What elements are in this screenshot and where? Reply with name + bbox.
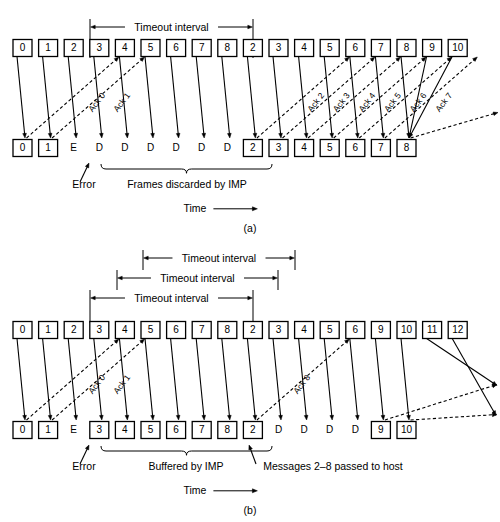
- error-label: Error: [72, 178, 96, 190]
- frame-number: 7: [199, 324, 205, 335]
- data-arrow: [375, 339, 383, 417]
- frame-number: 7: [378, 142, 384, 153]
- frame-number: 2: [71, 42, 77, 53]
- bracket-arrow-left: [91, 296, 96, 300]
- receiver-row-a: 01EDDDDDD2345678: [13, 140, 416, 157]
- data-arrow: [247, 57, 255, 135]
- ack-arrows: Ack 0Ack 1Ack 8: [27, 339, 498, 420]
- frame-number: 9: [378, 424, 384, 435]
- time-axis-label: Time: [184, 484, 207, 496]
- data-arrow: [247, 339, 255, 417]
- frame-marker: D: [275, 424, 282, 435]
- ack-label: Ack 6: [408, 90, 429, 113]
- ack-arrow: [257, 59, 347, 138]
- data-arrow: [171, 339, 179, 417]
- frame-number: 5: [327, 324, 333, 335]
- frame-number: 5: [148, 424, 154, 435]
- passed-pointer: [250, 448, 256, 464]
- frame-number: 12: [452, 324, 464, 335]
- panel-a: Timeout intervalAck 0Ack 1Ack 2Ack 3Ack …: [0, 0, 500, 240]
- frame-marker: D: [172, 142, 179, 153]
- data-arrow-head: [48, 415, 52, 420]
- frame-number: 8: [225, 324, 231, 335]
- frame-number: 4: [301, 42, 307, 53]
- data-arrow-head: [330, 415, 334, 420]
- ack-arrow-head: [345, 339, 350, 343]
- frame-marker: D: [198, 142, 205, 153]
- frame-marker: D: [224, 142, 231, 153]
- error-label: Error: [72, 460, 96, 472]
- timeout-bracket: Timeout interval: [90, 290, 253, 323]
- time-axis-arrow: [252, 489, 257, 493]
- ack-label: Ack 5: [382, 90, 403, 113]
- frame-number: 0: [20, 42, 26, 53]
- frame-number: 6: [353, 42, 359, 53]
- data-arrow: [196, 57, 204, 135]
- ack-arrow-offscreen-head: [493, 112, 498, 116]
- bracket-arrow-right: [248, 296, 253, 300]
- ack-arrows: Ack 0Ack 1Ack 2Ack 3Ack 4Ack 5Ack 6Ack 7: [27, 57, 499, 138]
- receiver-row-b: 01E3456782DDDD910: [13, 422, 416, 439]
- frame-number: 5: [148, 42, 154, 53]
- frame-marker: E: [70, 142, 77, 153]
- frame-number: 3: [276, 142, 282, 153]
- frame-marker: D: [96, 142, 103, 153]
- frame-number: 6: [353, 324, 359, 335]
- frame-number: 1: [45, 142, 51, 153]
- frame-number: 3: [97, 324, 103, 335]
- ack-label: Ack 4: [356, 90, 377, 113]
- ack-arrow-offscreen: [411, 113, 495, 138]
- data-frame-arrows: [17, 57, 452, 139]
- frame-number: 4: [122, 42, 128, 53]
- data-arrow-head: [228, 415, 232, 420]
- bracket-arrow-left: [91, 25, 96, 29]
- data-arrow-head: [279, 415, 283, 420]
- frame-number: 0: [20, 424, 26, 435]
- panel-caption: (b): [244, 504, 257, 516]
- data-arrow: [17, 57, 25, 135]
- time-axis: Time: [184, 484, 258, 496]
- panel-b: Timeout intervalTimeout intervalTimeout …: [0, 240, 500, 522]
- data-arrow-head: [48, 133, 52, 138]
- data-arrow-head: [356, 133, 360, 138]
- frame-marker: D: [326, 424, 333, 435]
- frame-number: 8: [225, 424, 231, 435]
- figure-root: Timeout intervalAck 0Ack 1Ack 2Ack 3Ack …: [0, 0, 500, 522]
- frame-number: 2: [250, 324, 256, 335]
- data-arrow-head: [176, 133, 180, 138]
- ack-arrow-offscreen: [411, 415, 494, 420]
- data-arrow-head: [23, 133, 27, 138]
- frame-number: 6: [173, 324, 179, 335]
- data-arrow: [324, 339, 332, 417]
- frame-number: 9: [429, 42, 435, 53]
- frame-number: 3: [276, 42, 282, 53]
- frame-number: 1: [45, 324, 51, 335]
- frame-marker: D: [147, 142, 154, 153]
- ack-arrow-offscreen: [385, 385, 494, 420]
- frame-number: 9: [378, 324, 384, 335]
- bracket-arrow-right: [248, 25, 253, 29]
- data-arrow-head: [279, 133, 283, 138]
- frames-discarded-label: Frames discarded by IMP: [127, 178, 247, 190]
- data-arrow-head: [202, 133, 206, 138]
- data-arrow: [222, 339, 230, 417]
- discarded-brace: [101, 164, 272, 173]
- data-arrow-head: [381, 133, 385, 138]
- ack-label: Ack 0: [86, 372, 107, 395]
- data-arrow-head: [330, 133, 334, 138]
- data-arrow-head: [304, 133, 308, 138]
- data-arrow-head: [23, 415, 27, 420]
- sender-row-a: 0123456782345678910: [13, 40, 467, 57]
- error-pointer-head: [85, 445, 89, 450]
- frame-number: 10: [401, 424, 413, 435]
- annotations: ErrorBuffered by IMPMessages 2–8 passed …: [72, 445, 403, 472]
- ack-label: Ack 3: [331, 90, 352, 113]
- data-arrow: [171, 57, 179, 135]
- data-arrow: [401, 339, 409, 417]
- frame-number: 8: [225, 42, 231, 53]
- data-arrow-head: [202, 415, 206, 420]
- data-arrow-head: [125, 133, 129, 138]
- frame-number: 4: [122, 324, 128, 335]
- data-arrow-head: [100, 133, 104, 138]
- data-arrow-head: [253, 133, 257, 138]
